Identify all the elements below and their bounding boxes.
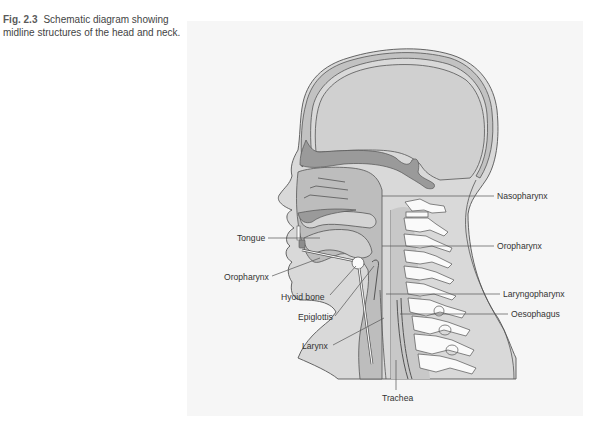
label-trachea: Trachea — [382, 393, 413, 403]
label-oesophagus: Oesophagus — [511, 309, 560, 319]
figure-panel: Nasopharynx Oropharynx Laryngopharynx Oe… — [187, 21, 583, 416]
head-neck-diagram — [187, 21, 583, 416]
label-tongue: Tongue — [237, 233, 265, 243]
label-hyoid-bone: Hyoid bone — [281, 292, 324, 302]
label-larynx: Larynx — [302, 341, 328, 351]
label-oropharynx-right: Oropharynx — [497, 241, 542, 251]
label-nasopharynx: Nasopharynx — [497, 191, 548, 201]
label-laryngopharynx: Laryngopharynx — [503, 289, 565, 299]
figure-number: Fig. 2.3 — [3, 14, 37, 25]
label-oropharynx-left: Oropharynx — [224, 272, 269, 282]
lower-incisor — [299, 240, 305, 248]
hyoid-bone — [352, 257, 364, 269]
label-epiglottis: Epiglottis — [298, 312, 333, 322]
figure-caption: Fig. 2.3Schematic diagram showing midlin… — [3, 13, 181, 39]
